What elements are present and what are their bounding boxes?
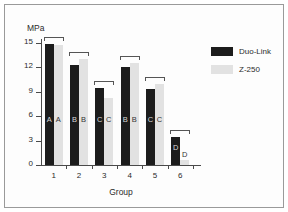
x-axis-tick-label: 3 bbox=[97, 171, 111, 180]
bar-group-letter: C bbox=[146, 115, 155, 124]
y-axis-tick-label: 12 bbox=[24, 61, 33, 70]
bar-group-letter: B bbox=[79, 115, 88, 124]
bar: B bbox=[130, 63, 139, 165]
y-axis-tick: 12 bbox=[36, 67, 41, 68]
bar: D bbox=[171, 137, 180, 165]
bar: B bbox=[70, 65, 79, 165]
plot-area: AABBCCBBCCDD bbox=[41, 43, 193, 165]
bar: A bbox=[54, 45, 63, 165]
y-axis-tick: 3 bbox=[36, 141, 41, 142]
bar: C bbox=[95, 88, 104, 165]
legend: Duo-Link Z-250 bbox=[211, 47, 271, 83]
legend-item-duo-link: Duo-Link bbox=[211, 47, 271, 56]
bar-group-letter: A bbox=[54, 115, 63, 124]
x-axis-tick bbox=[66, 165, 67, 169]
bar-group-letter: C bbox=[95, 115, 104, 124]
x-axis-tick bbox=[168, 165, 169, 169]
bar-group-letter: D bbox=[180, 150, 189, 159]
y-axis-tick-label: 0 bbox=[29, 159, 33, 168]
figure-frame: MPa AABBCCBBCCDD 03691215 123456 Group D… bbox=[4, 4, 284, 208]
y-axis-tick: 0 bbox=[36, 165, 41, 166]
y-axis-label: MPa bbox=[27, 23, 44, 33]
bar: C bbox=[146, 89, 155, 165]
legend-label-z-250: Z-250 bbox=[239, 65, 260, 74]
x-axis-line bbox=[41, 165, 201, 166]
y-axis-tick: 9 bbox=[36, 92, 41, 93]
bar: A bbox=[45, 44, 54, 165]
significance-bracket bbox=[69, 52, 89, 56]
y-axis-tick-label: 9 bbox=[29, 86, 33, 95]
x-axis-tick-label: 6 bbox=[173, 171, 187, 180]
x-axis-tick-label: 2 bbox=[72, 171, 86, 180]
bar-group-letter: B bbox=[130, 115, 139, 124]
x-axis-tick-label: 5 bbox=[148, 171, 162, 180]
bar: C bbox=[104, 98, 113, 166]
x-axis-tick bbox=[117, 165, 118, 169]
y-axis-tick-label: 6 bbox=[29, 110, 33, 119]
significance-bracket bbox=[44, 37, 64, 41]
y-axis-tick: 6 bbox=[36, 116, 41, 117]
x-axis-tick-label: 1 bbox=[47, 171, 61, 180]
bar-group-letter: B bbox=[121, 115, 130, 124]
figure-container: MPa AABBCCBBCCDD 03691215 123456 Group D… bbox=[0, 0, 288, 212]
bar: B bbox=[121, 67, 130, 165]
x-axis-tick bbox=[92, 165, 93, 169]
x-axis-tick-label: 4 bbox=[123, 171, 137, 180]
y-axis-tick: 15 bbox=[36, 43, 41, 44]
legend-swatch-icon-duo-link bbox=[211, 47, 233, 56]
bar-group-letter: D bbox=[171, 143, 180, 152]
bar-group-letter: A bbox=[45, 115, 54, 124]
significance-bracket bbox=[120, 56, 140, 60]
legend-label-duo-link: Duo-Link bbox=[239, 47, 271, 56]
x-axis-label: Group bbox=[41, 187, 201, 197]
x-axis-tick bbox=[193, 165, 194, 169]
bar-group-letter: B bbox=[70, 115, 79, 124]
significance-bracket bbox=[94, 81, 114, 85]
x-axis-tick bbox=[142, 165, 143, 169]
legend-swatch-icon-z-250 bbox=[211, 65, 233, 74]
significance-bracket bbox=[145, 77, 165, 81]
bar-group-letter: C bbox=[104, 115, 113, 124]
bar: C bbox=[155, 84, 164, 165]
bar-group-letter: C bbox=[155, 115, 164, 124]
bar: B bbox=[79, 59, 88, 165]
y-axis-tick-label: 15 bbox=[24, 37, 33, 46]
y-axis-tick-label: 3 bbox=[29, 135, 33, 144]
bar: D bbox=[180, 160, 189, 165]
legend-item-z-250: Z-250 bbox=[211, 65, 271, 74]
significance-bracket bbox=[170, 130, 190, 134]
